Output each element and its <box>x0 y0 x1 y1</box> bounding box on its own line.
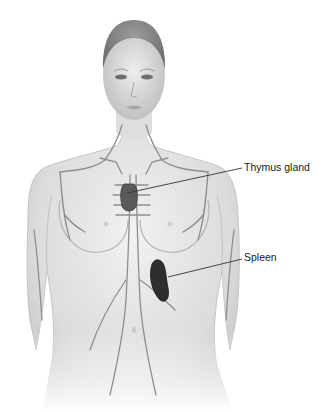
thymus-gland <box>121 184 138 211</box>
head <box>103 20 165 138</box>
spleen-label: Spleen <box>244 251 277 263</box>
anatomy-figure: Thymus gland Spleen <box>0 0 330 412</box>
torso-illustration <box>0 0 330 412</box>
thymus-gland-label: Thymus gland <box>244 161 310 173</box>
